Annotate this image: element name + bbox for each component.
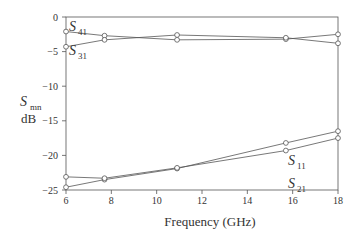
data-marker bbox=[64, 44, 69, 49]
data-marker bbox=[102, 37, 107, 42]
data-marker bbox=[336, 136, 341, 141]
data-marker bbox=[336, 41, 341, 46]
series-label-sub: 41 bbox=[78, 27, 87, 37]
x-tick-label: 16 bbox=[288, 195, 298, 206]
series-label-sub: 21 bbox=[297, 184, 306, 194]
y-tick-label: −25 bbox=[42, 185, 58, 196]
y-tick-label: −5 bbox=[47, 46, 58, 57]
s-parameter-chart: 0−5−10−15−20−25681012141618 Frequency (G… bbox=[0, 0, 357, 236]
y-axis-label: S bbox=[20, 94, 27, 109]
axes: 0−5−10−15−20−25681012141618 bbox=[42, 12, 343, 207]
data-marker bbox=[336, 32, 341, 37]
y-tick-label: −20 bbox=[42, 150, 58, 161]
y-tick-label: −10 bbox=[42, 81, 58, 92]
data-marker bbox=[336, 129, 341, 134]
data-marker bbox=[64, 174, 69, 179]
series-label-sub: 31 bbox=[78, 51, 87, 61]
series-label-s11: S bbox=[288, 153, 295, 168]
x-tick-label: 10 bbox=[152, 195, 162, 206]
data-marker bbox=[283, 141, 288, 146]
series-label-s21: S bbox=[288, 176, 295, 191]
y-tick-label: −15 bbox=[42, 115, 58, 126]
data-marker bbox=[175, 165, 180, 170]
x-tick-label: 6 bbox=[64, 195, 69, 206]
series-label-s31: S bbox=[69, 43, 76, 58]
y-tick-label: 0 bbox=[53, 12, 58, 23]
data-marker bbox=[283, 35, 288, 40]
series-label-sub: 11 bbox=[297, 161, 306, 171]
data-marker bbox=[64, 29, 69, 34]
data-marker bbox=[64, 185, 69, 190]
series-label-s41: S bbox=[69, 19, 76, 34]
data-marker bbox=[175, 33, 180, 38]
series-line-s21 bbox=[66, 138, 338, 178]
x-tick-label: 14 bbox=[242, 195, 252, 206]
x-axis-label: Frequency (GHz) bbox=[164, 214, 255, 229]
y-axis-unit: dB bbox=[21, 111, 37, 126]
data-marker bbox=[102, 176, 107, 181]
x-tick-label: 18 bbox=[333, 195, 343, 206]
data-marker bbox=[175, 37, 180, 42]
x-tick-label: 12 bbox=[197, 195, 207, 206]
x-tick-label: 8 bbox=[109, 195, 114, 206]
